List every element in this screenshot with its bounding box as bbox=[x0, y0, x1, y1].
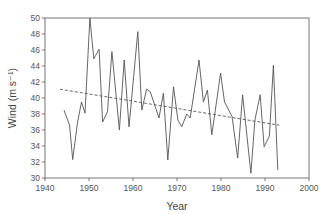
x-tick-label: 1970 bbox=[168, 183, 187, 193]
y-axis-title: Wind (m s⁻¹) bbox=[6, 68, 18, 128]
y-tick-label: 34 bbox=[31, 141, 41, 151]
x-tick-label: 1960 bbox=[124, 183, 143, 193]
x-axis-ticks: 1940195019601970198019902000 bbox=[36, 178, 319, 193]
x-tick-label: 1950 bbox=[80, 183, 99, 193]
y-tick-label: 40 bbox=[31, 93, 41, 103]
y-tick-label: 50 bbox=[31, 13, 41, 23]
trend-line bbox=[60, 89, 279, 125]
x-tick-label: 2000 bbox=[300, 183, 319, 193]
y-tick-label: 48 bbox=[31, 29, 41, 39]
y-tick-label: 36 bbox=[31, 125, 41, 135]
data-series bbox=[60, 18, 279, 173]
y-tick-label: 38 bbox=[31, 109, 41, 119]
x-tick-label: 1940 bbox=[36, 183, 55, 193]
x-tick-label: 1990 bbox=[256, 183, 275, 193]
y-tick-label: 32 bbox=[31, 157, 41, 167]
plot-frame bbox=[45, 18, 309, 178]
x-tick-label: 1980 bbox=[212, 183, 231, 193]
y-tick-label: 30 bbox=[31, 173, 41, 183]
wind-series-line bbox=[64, 18, 278, 173]
y-tick-label: 46 bbox=[31, 45, 41, 55]
wind-trend-chart: 3032343638404244464850 19401950196019701… bbox=[0, 0, 330, 214]
x-axis-title: Year bbox=[166, 200, 188, 212]
y-tick-label: 42 bbox=[31, 77, 41, 87]
y-tick-label: 44 bbox=[31, 61, 41, 71]
axes bbox=[45, 18, 309, 178]
y-axis-ticks: 3032343638404244464850 bbox=[31, 13, 45, 183]
